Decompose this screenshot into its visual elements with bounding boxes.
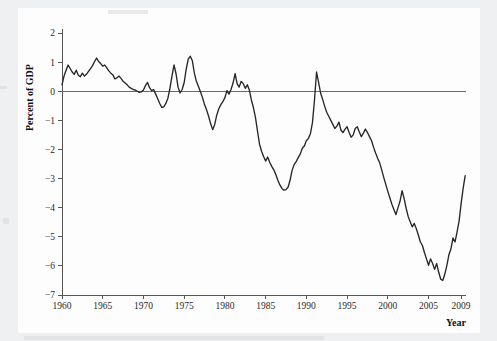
y-axis-tick-labels: 210−1−2−3−4−5−6−7 <box>45 28 55 300</box>
data-series-line <box>62 56 465 280</box>
y-tick-label: −1 <box>45 116 55 126</box>
x-tick-label: 1960 <box>53 301 72 311</box>
x-axis-group: 1960196519701975198019851990199520002005… <box>53 295 471 311</box>
x-tick-label: 2000 <box>378 301 397 311</box>
y-axis-title: Percent of GDP <box>24 64 35 131</box>
y-tick-label: −7 <box>45 290 55 300</box>
y-tick-label: −5 <box>45 232 55 242</box>
y-tick-label: 2 <box>50 28 55 38</box>
x-tick-label: 2009 <box>452 301 471 311</box>
y-tick-label: −6 <box>45 261 55 271</box>
y-axis-group: 210−1−2−3−4−5−6−7 <box>45 28 62 300</box>
x-tick-label: 1975 <box>175 301 194 311</box>
x-tick-label: 1965 <box>93 301 112 311</box>
y-tick-label: 0 <box>50 87 55 97</box>
x-tick-label: 1980 <box>215 301 234 311</box>
x-tick-label: 1990 <box>297 301 316 311</box>
figure-root: 210−1−2−3−4−5−6−7 1960196519701975198019… <box>0 0 497 341</box>
x-tick-label: 1995 <box>338 301 357 311</box>
x-tick-label: 1970 <box>134 301 153 311</box>
current-account-balance-chart: 210−1−2−3−4−5−6−7 1960196519701975198019… <box>0 0 497 341</box>
y-tick-label: 1 <box>50 58 55 68</box>
y-axis-ticks <box>58 33 62 295</box>
y-tick-label: −2 <box>45 145 55 155</box>
x-tick-label: 1985 <box>256 301 275 311</box>
x-axis-ticks <box>62 295 461 299</box>
y-tick-label: −3 <box>45 174 55 184</box>
x-tick-label: 2005 <box>419 301 438 311</box>
y-tick-label: −4 <box>45 203 55 213</box>
x-axis-tick-labels: 1960196519701975198019851990199520002005… <box>53 301 471 311</box>
x-axis-title: Year <box>446 317 467 328</box>
